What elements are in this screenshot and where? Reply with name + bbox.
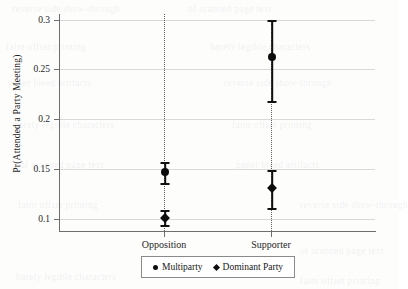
page-showthrough-artifact: reverse side show-through: [12, 4, 120, 14]
error-bar-supporter-multiparty: [271, 20, 273, 102]
diamond-marker-icon: [213, 263, 220, 270]
gridline-0.3: [60, 20, 375, 21]
page-showthrough-artifact: of scanned page text: [188, 4, 272, 14]
x-tick-mark-supporter: [271, 232, 272, 237]
y-axis-title: Pr(Attended a Party Meeting): [12, 5, 22, 222]
y-tick-mark-0.2: [54, 119, 60, 120]
data-point-opposition-multiparty: [161, 168, 169, 176]
page-showthrough-artifact: barely legible characters: [16, 272, 116, 282]
gridline-0.15: [60, 169, 375, 170]
x-tick-label-supporter: Supporter: [251, 239, 290, 250]
y-tick-mark-0.15: [54, 169, 60, 170]
error-bar-cap-upper-supporter-multiparty: [268, 20, 277, 22]
error-bar-cap-lower-supporter-dominant: [268, 208, 277, 210]
legend-item-dominant-party: Dominant Party: [214, 262, 283, 272]
gridline-0.1: [60, 219, 375, 220]
error-bar-cap-upper-opposition-dominant: [161, 210, 170, 212]
data-point-supporter-dominant: [267, 183, 277, 193]
y-tick-label-0.15: 0.15: [33, 164, 50, 174]
x-tick-mark-opposition: [164, 232, 165, 237]
category-guide-opposition: [164, 14, 166, 231]
y-tick-label-0.3: 0.3: [38, 15, 50, 25]
y-tick-mark-0.1: [54, 219, 60, 220]
page-showthrough-artifact: faint offset printing: [300, 276, 380, 286]
page-showthrough-artifact: of scanned page text: [300, 246, 384, 256]
data-point-opposition-dominant: [160, 213, 170, 223]
x-axis-line: [59, 231, 376, 232]
y-axis-line: [59, 14, 60, 232]
y-tick-mark-0.3: [54, 20, 60, 21]
data-point-supporter-multiparty: [268, 53, 276, 61]
y-tick-label-0.1: 0.1: [38, 214, 50, 224]
gridline-0.25: [60, 69, 375, 70]
error-bar-cap-lower-supporter-multiparty: [268, 101, 277, 103]
y-tick-mark-0.25: [54, 69, 60, 70]
error-bar-cap-upper-opposition-multiparty: [161, 162, 170, 164]
error-bar-cap-upper-supporter-dominant: [268, 170, 277, 172]
error-bar-cap-lower-opposition-dominant: [161, 225, 170, 227]
circle-marker-icon: [153, 265, 158, 270]
x-tick-label-opposition: Opposition: [142, 239, 186, 250]
legend-item-multiparty: Multiparty: [153, 262, 203, 272]
legend-label-multiparty: Multiparty: [162, 262, 203, 272]
legend-label-dominant-party: Dominant Party: [223, 262, 283, 272]
gridline-0.2: [60, 119, 375, 120]
y-tick-label-0.25: 0.25: [33, 64, 50, 74]
plot-area: [60, 14, 375, 231]
chart-legend: Multiparty Dominant Party: [141, 256, 295, 278]
y-tick-label-0.2: 0.2: [38, 114, 50, 124]
error-bar-cap-lower-opposition-multiparty: [161, 183, 170, 185]
